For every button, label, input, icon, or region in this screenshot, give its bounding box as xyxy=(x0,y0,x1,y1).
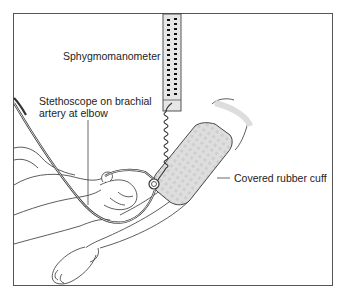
stethoscope-chestpiece xyxy=(149,179,159,189)
sphygmomanometer xyxy=(163,14,181,111)
bp-illustration xyxy=(0,0,341,294)
label-stethoscope: Stethoscope on brachial artery at elbow xyxy=(39,95,152,119)
label-sphygmomanometer: Sphygmomanometer xyxy=(63,50,160,62)
label-rubber-cuff: Covered rubber cuff xyxy=(234,172,327,184)
label-stethoscope-line1: Stethoscope on brachial xyxy=(39,95,152,107)
label-stethoscope-line2: artery at elbow xyxy=(39,107,152,119)
